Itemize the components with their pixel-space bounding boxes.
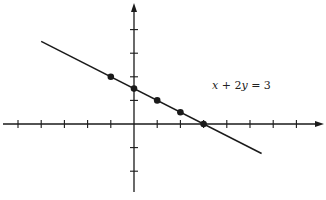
x-axis-arrow-icon <box>315 121 324 127</box>
axes <box>3 10 318 192</box>
equation-rhs: = 3 <box>248 79 271 92</box>
data-point <box>200 121 207 128</box>
equation-line <box>41 41 261 153</box>
equation-plus: + 2 <box>218 79 241 92</box>
coordinate-plane <box>0 0 326 200</box>
data-point <box>177 109 184 116</box>
data-point <box>108 74 115 81</box>
data-point <box>154 97 161 104</box>
equation-label: x + 2y = 3 <box>212 79 271 92</box>
y-axis-arrow-icon <box>131 3 137 12</box>
plotted-points <box>108 74 207 128</box>
data-point <box>131 85 138 92</box>
